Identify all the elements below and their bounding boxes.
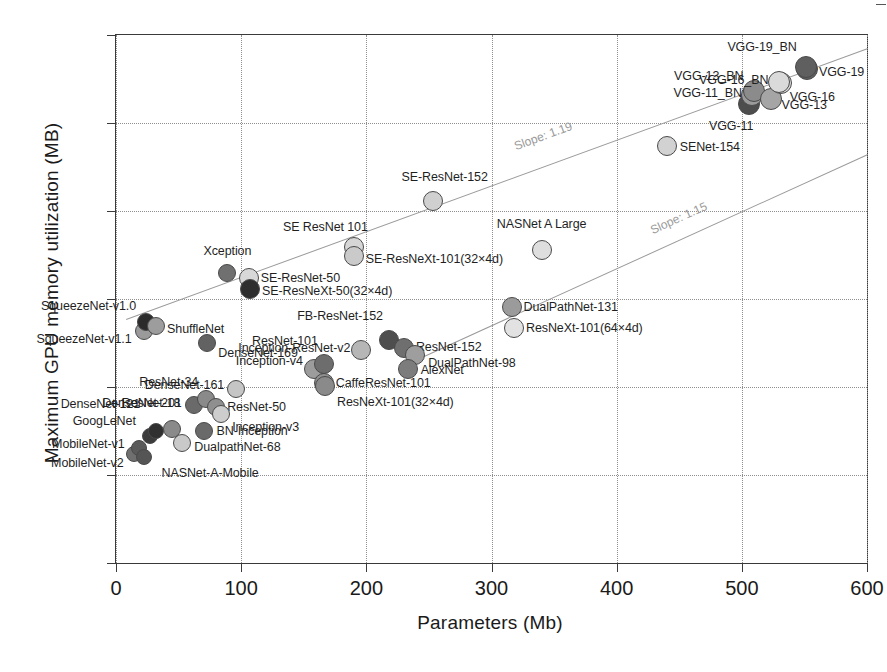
data-point-label: SENet-154 bbox=[680, 140, 740, 153]
data-point[interactable] bbox=[504, 318, 524, 338]
data-point[interactable] bbox=[657, 136, 677, 156]
x-axis-title: Parameters (Mb) bbox=[110, 612, 870, 634]
data-point[interactable] bbox=[227, 380, 245, 398]
data-point[interactable] bbox=[218, 264, 236, 282]
y-axis-tick-mark bbox=[107, 35, 116, 36]
slope-annotation: Slope: 1.19 bbox=[512, 119, 574, 153]
data-point-label: DualPathNet-131 bbox=[524, 300, 618, 313]
data-point-label: SE-ResNet-152 bbox=[402, 171, 488, 184]
data-point[interactable] bbox=[147, 317, 165, 335]
y-axis-title: Maximum GPU memory utilization (MB) bbox=[41, 63, 63, 523]
data-point-label: Inception-v4 bbox=[236, 354, 303, 367]
data-point-label: DenseNet-201 bbox=[102, 396, 181, 409]
x-axis-tick-mark bbox=[742, 563, 743, 572]
data-point-label: Inception-v3 bbox=[232, 421, 299, 434]
data-point-label: GoogLeNet bbox=[73, 415, 136, 428]
data-point-label: FB-ResNet-152 bbox=[297, 309, 383, 322]
gridline-vertical bbox=[867, 35, 868, 563]
data-point[interactable] bbox=[398, 359, 418, 379]
data-point-label: ResNeXt-101(32×4d) bbox=[337, 396, 454, 409]
frame-corner-tick-icon bbox=[876, 4, 886, 5]
data-point-label: NASNet-A-Mobile bbox=[162, 467, 259, 480]
data-point-label: ResNeXt-101(64×4d) bbox=[526, 321, 643, 334]
data-point[interactable] bbox=[212, 405, 230, 423]
data-point-label: MobileNet-v1 bbox=[52, 437, 124, 450]
figure-scatter-gpu-memory: Maximum GPU memory utilization (MB) Para… bbox=[0, 0, 887, 672]
x-axis-tick-label: 100 bbox=[196, 577, 286, 600]
data-point-label: ShuffleNet bbox=[167, 323, 224, 336]
data-point-label: SqueezeNet-v1.1 bbox=[36, 332, 131, 345]
data-point-label: DualpathNet-68 bbox=[194, 441, 280, 454]
x-axis-tick-mark bbox=[867, 563, 868, 572]
data-point-label: SE ResNet 101 bbox=[283, 221, 368, 234]
x-axis-tick-mark bbox=[492, 563, 493, 572]
x-axis-tick-mark bbox=[617, 563, 618, 572]
data-point[interactable] bbox=[795, 56, 817, 78]
data-point-label: VGG-19 bbox=[819, 65, 864, 78]
data-point-label: SE-ResNeXt-101(32×4d) bbox=[366, 252, 503, 265]
data-point[interactable] bbox=[423, 191, 443, 211]
y-axis-tick-mark bbox=[107, 123, 116, 124]
data-point[interactable] bbox=[136, 449, 152, 465]
plot-inner: Slope: 1.19Slope: 1.15MobileNet-v2Mobile… bbox=[116, 35, 867, 563]
data-point-label: SqueezeNet-v1.0 bbox=[41, 299, 136, 312]
y-axis-tick-mark bbox=[107, 563, 116, 564]
x-axis-tick-mark bbox=[366, 563, 367, 572]
y-axis-tick-mark bbox=[107, 387, 116, 388]
data-point-label: ResNet-152 bbox=[416, 341, 482, 354]
data-point-label: VGG-19_BN bbox=[727, 41, 796, 54]
data-point[interactable] bbox=[344, 246, 364, 266]
data-point[interactable] bbox=[532, 240, 552, 260]
data-point-label: DenseNet-161 bbox=[145, 378, 224, 391]
data-point[interactable] bbox=[502, 297, 522, 317]
gridline-horizontal bbox=[116, 211, 867, 212]
data-point[interactable] bbox=[173, 434, 191, 452]
data-point-label: MobileNet-v2 bbox=[51, 456, 123, 469]
x-axis-tick-label: 200 bbox=[321, 577, 411, 600]
x-axis-tick-mark bbox=[116, 563, 117, 572]
x-axis-tick-label: 300 bbox=[447, 577, 537, 600]
x-axis-tick-label: 500 bbox=[697, 577, 787, 600]
y-axis-tick-mark bbox=[107, 299, 116, 300]
y-axis-tick-mark bbox=[107, 211, 116, 212]
data-point-label: Xception bbox=[203, 244, 251, 257]
plot-area: Slope: 1.19Slope: 1.15MobileNet-v2Mobile… bbox=[115, 34, 868, 564]
data-point-label: VGG-11_BN bbox=[674, 87, 742, 100]
y-axis-tick-mark bbox=[107, 475, 116, 476]
data-point-label: ResNet-50 bbox=[227, 400, 286, 413]
data-point[interactable] bbox=[240, 279, 260, 299]
gridline-horizontal bbox=[116, 299, 867, 300]
data-point[interactable] bbox=[314, 354, 334, 374]
x-axis-tick-label: 400 bbox=[572, 577, 662, 600]
data-point-label: SE-ResNeXt-50(32×4d) bbox=[262, 285, 392, 298]
data-point-label: VGG-16 bbox=[790, 91, 835, 104]
data-point[interactable] bbox=[195, 422, 213, 440]
x-axis-tick-label: 0 bbox=[71, 577, 161, 600]
x-axis-tick-label: 600 bbox=[822, 577, 887, 600]
gridline-horizontal bbox=[116, 123, 867, 124]
data-point-label: NASNet A Large bbox=[497, 217, 587, 230]
slope-annotation: Slope: 1.15 bbox=[648, 199, 709, 237]
data-point-label: CaffeResNet-101 bbox=[336, 376, 431, 389]
data-point-label: VGG-16_BN bbox=[699, 73, 768, 86]
data-point[interactable] bbox=[315, 376, 335, 396]
data-point[interactable] bbox=[198, 334, 216, 352]
data-point-label: AlexNet bbox=[421, 363, 464, 376]
data-point[interactable] bbox=[768, 71, 790, 93]
x-axis-tick-mark bbox=[241, 563, 242, 572]
data-point[interactable] bbox=[351, 340, 371, 360]
data-point[interactable] bbox=[148, 423, 164, 439]
data-point-label: Inception-ResNet-v2 bbox=[238, 342, 350, 355]
data-point-label: VGG-11 bbox=[709, 120, 753, 133]
